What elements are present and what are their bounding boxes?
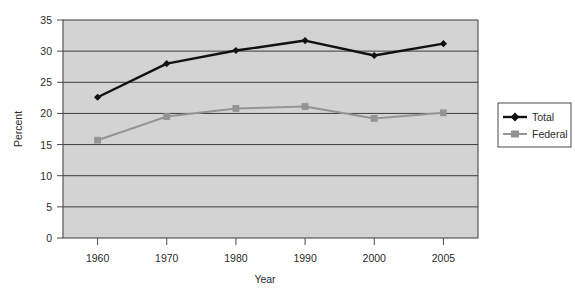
square-marker-icon [511, 131, 519, 138]
y-tick-label: 0 [46, 232, 52, 244]
data-point-square-marker [233, 105, 240, 112]
x-axis-title: Year [254, 273, 276, 285]
y-tick-label: 10 [40, 170, 52, 182]
legend-label-total: Total [532, 111, 554, 123]
line-chart: 35 30 25 20 15 10 5 0 1960 1970 1980 199… [0, 0, 575, 293]
x-tick-label: 1980 [224, 252, 248, 264]
data-point-square-marker [371, 115, 378, 122]
x-tick-label: 1960 [86, 252, 110, 264]
y-tick-label: 35 [40, 14, 52, 26]
data-point-square-marker [302, 103, 309, 110]
data-point-square-marker [440, 109, 447, 116]
data-point-square-marker [163, 113, 170, 120]
x-tick-label: 2005 [432, 252, 456, 264]
data-point-square-marker [94, 137, 101, 144]
x-tick-label: 2000 [363, 252, 387, 264]
plot-area-background [63, 20, 478, 238]
y-tick-label: 15 [40, 139, 52, 151]
y-tick-label: 5 [46, 201, 52, 213]
x-tick-label: 1970 [155, 252, 179, 264]
y-axis-title: Percent [12, 111, 24, 147]
y-tick-label: 25 [40, 76, 52, 88]
legend-box [498, 103, 571, 147]
legend: Total Federal [498, 103, 571, 147]
chart-canvas: 35 30 25 20 15 10 5 0 1960 1970 1980 199… [0, 0, 575, 293]
y-tick-label: 20 [40, 107, 52, 119]
legend-label-federal: Federal [532, 128, 568, 140]
y-tick-label: 30 [40, 45, 52, 57]
x-tick-label: 1990 [293, 252, 317, 264]
